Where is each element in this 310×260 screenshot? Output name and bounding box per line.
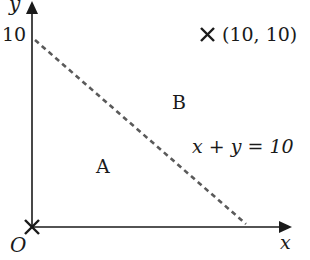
origin-label: O [10, 235, 26, 255]
point-label: (10, 10) [222, 25, 297, 44]
coordinate-diagram: y 10 (10, 10) B A x + y = 10 O x [0, 0, 310, 260]
line-equation-label: x + y = 10 [192, 137, 294, 156]
region-a-label: A [96, 157, 110, 176]
y-tick-label: 10 [2, 25, 26, 44]
y-axis-arrow-icon [26, 1, 38, 14]
x-axis-label: x [280, 233, 291, 252]
y-axis-label: y [9, 0, 20, 14]
point-cross-marker-icon [201, 28, 214, 41]
boundary-line [35, 40, 246, 224]
region-b-label: B [172, 93, 186, 112]
